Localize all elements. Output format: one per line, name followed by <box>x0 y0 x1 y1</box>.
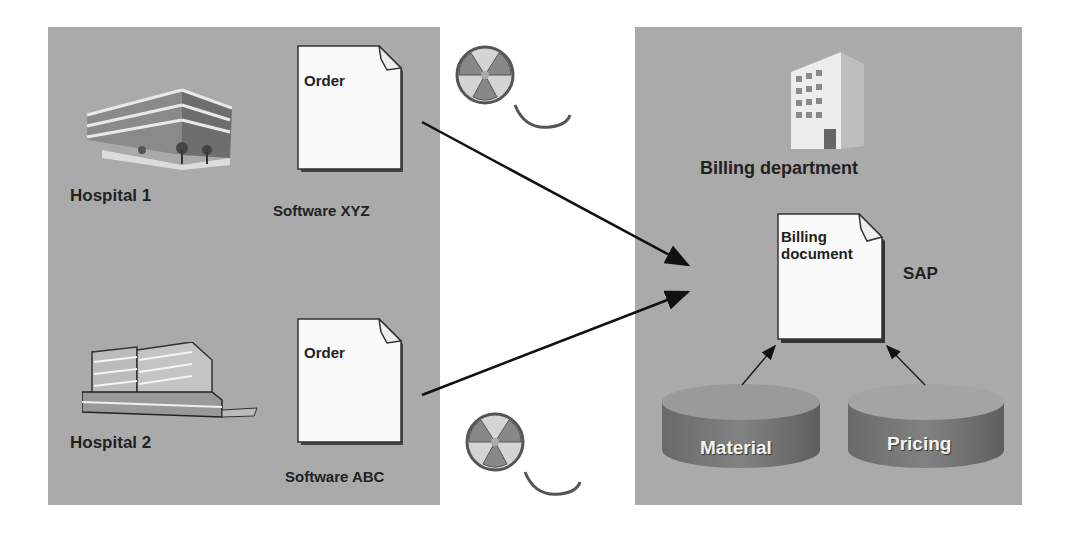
connector-arrows <box>0 0 1067 535</box>
arrow-order-xyz-to-billing <box>422 122 688 265</box>
arrow-order-abc-to-billing <box>422 292 688 395</box>
arrow-pricing-to-billing <box>887 346 925 385</box>
arrow-material-to-billing <box>742 346 775 385</box>
